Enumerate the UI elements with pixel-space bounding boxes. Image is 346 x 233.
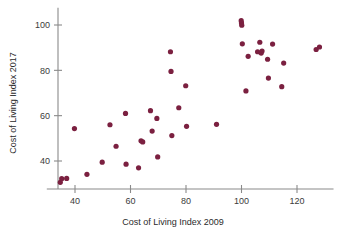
data-point	[123, 162, 128, 167]
y-axis-title: Cost of Living Index 2017	[8, 52, 18, 154]
data-point	[265, 57, 270, 62]
x-tick-label-60: 60	[125, 196, 135, 206]
data-point	[154, 116, 159, 121]
axis-ticks: 406080100120406080100	[35, 20, 305, 206]
data-point	[150, 128, 155, 133]
data-point	[155, 154, 160, 159]
data-point	[140, 139, 145, 144]
data-point	[281, 60, 286, 65]
data-point	[259, 48, 264, 53]
data-point	[72, 126, 77, 131]
x-axis-title: Cost of Living Index 2009	[122, 217, 224, 227]
scatter-chart: 406080100120406080100 Cost of Living Ind…	[0, 0, 346, 233]
data-point	[243, 88, 248, 93]
data-point	[257, 40, 262, 45]
plot-area: 406080100120406080100 Cost of Living Ind…	[0, 0, 346, 233]
x-tick-label-40: 40	[70, 196, 80, 206]
data-point	[279, 84, 284, 89]
data-point	[168, 49, 173, 54]
data-point	[183, 83, 188, 88]
y-tick-label-100: 100	[35, 20, 50, 30]
data-point	[317, 44, 322, 49]
y-tick-label-80: 80	[40, 66, 50, 76]
data-point	[246, 54, 251, 59]
x-tick-label-100: 100	[234, 196, 249, 206]
data-point	[136, 165, 141, 170]
data-point	[100, 160, 105, 165]
data-point	[240, 41, 245, 46]
data-point	[176, 105, 181, 110]
axes	[47, 8, 334, 189]
x-tick-label-120: 120	[289, 196, 304, 206]
data-point	[214, 122, 219, 127]
data-point	[148, 108, 153, 113]
data-point	[107, 122, 112, 127]
data-point	[169, 133, 174, 138]
data-points	[58, 18, 322, 185]
data-point	[168, 69, 173, 74]
y-tick-label-40: 40	[40, 156, 50, 166]
x-tick-label-80: 80	[181, 196, 191, 206]
data-point	[64, 176, 69, 181]
data-point	[239, 23, 244, 28]
data-point	[84, 172, 89, 177]
y-tick-label-60: 60	[40, 111, 50, 121]
data-point	[59, 176, 64, 181]
data-point	[123, 111, 128, 116]
data-point	[266, 75, 271, 80]
data-point	[270, 41, 275, 46]
data-point	[184, 124, 189, 129]
data-point	[113, 144, 118, 149]
